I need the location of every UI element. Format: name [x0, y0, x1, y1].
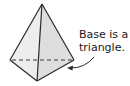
annotation-line-1: Base is a — [79, 29, 128, 42]
annotation-label: Base is a triangle. — [79, 29, 128, 54]
annotation-line-2: triangle. — [79, 42, 128, 55]
arrowhead-icon — [67, 66, 73, 71]
arrow-curve — [71, 57, 94, 68]
right-face — [37, 4, 74, 81]
